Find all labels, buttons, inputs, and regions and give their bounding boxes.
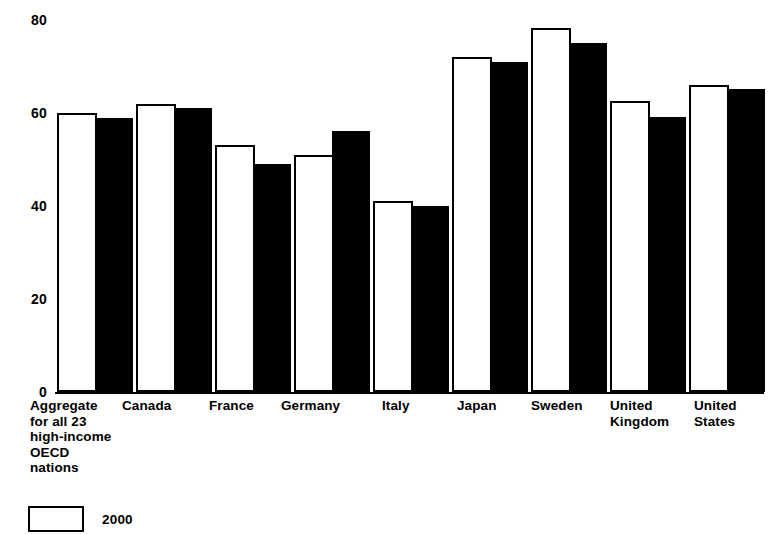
x-axis-labels: Aggregate for all 23 high-income OECD na…	[57, 398, 773, 493]
bar-later-germany	[332, 131, 370, 392]
y-tick-40: 40	[31, 199, 47, 213]
bar-later-sweden	[569, 43, 607, 392]
x-label-france: France	[209, 398, 254, 414]
x-label-canada: Canada	[122, 398, 171, 414]
bar-2000-sweden	[531, 28, 571, 392]
bar-2000-japan	[452, 57, 492, 392]
bar-group-germany	[294, 20, 370, 392]
bar-later-united-kingdom	[648, 117, 686, 392]
bar-later-united-states	[727, 89, 765, 392]
bar-2000-canada	[136, 104, 176, 392]
bar-later-japan	[490, 62, 528, 392]
bar-later-france	[253, 164, 291, 392]
bar-2000-united-kingdom	[610, 101, 650, 392]
bar-group-sweden	[531, 20, 607, 392]
bar-group-france	[215, 20, 291, 392]
x-axis-baseline	[55, 392, 764, 394]
bar-groups	[57, 20, 763, 392]
y-axis: 80 60 40 20 0	[0, 0, 57, 412]
y-tick-0: 0	[39, 385, 47, 399]
legend: 2000	[28, 506, 133, 532]
y-tick-80: 80	[31, 13, 47, 27]
y-tick-20: 20	[31, 292, 47, 306]
y-tick-60: 60	[31, 106, 47, 120]
bar-2000-aggregate	[57, 113, 97, 392]
bar-later-aggregate	[95, 118, 133, 392]
x-label-sweden: Sweden	[531, 398, 583, 414]
x-label-united-states: United States	[694, 398, 737, 429]
bar-group-italy	[373, 20, 449, 392]
bar-2000-germany	[294, 155, 334, 392]
bar-2000-france	[215, 145, 255, 392]
bar-group-united-states	[689, 20, 765, 392]
bar-chart: 80 60 40 20 0	[0, 0, 773, 534]
bar-later-canada	[174, 108, 212, 392]
x-label-germany: Germany	[281, 398, 340, 414]
legend-label-2000: 2000	[102, 512, 133, 527]
x-label-italy: Italy	[382, 398, 410, 414]
bar-2000-italy	[373, 201, 413, 392]
white-square-icon	[28, 506, 84, 532]
x-label-aggregate: Aggregate for all 23 high-income OECD na…	[30, 398, 111, 476]
bar-later-italy	[411, 206, 449, 392]
bar-group-aggregate	[57, 20, 133, 392]
bar-2000-united-states	[689, 85, 729, 392]
bar-group-japan	[452, 20, 528, 392]
bar-group-canada	[136, 20, 212, 392]
x-label-japan: Japan	[457, 398, 497, 414]
x-label-united-kingdom: United Kingdom	[610, 398, 669, 429]
bar-group-united-kingdom	[610, 20, 686, 392]
